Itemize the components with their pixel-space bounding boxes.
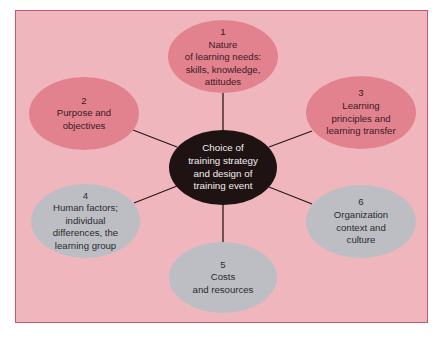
node-label-line: Human factors; <box>53 202 118 215</box>
node-number: 1 <box>220 26 225 39</box>
node-label-line: Nature <box>209 39 238 52</box>
connector-6 <box>269 187 312 204</box>
node-number: 2 <box>81 95 86 108</box>
node-label-line: skills, knowledge, <box>186 64 261 77</box>
node-learning-needs: 1 Nature of learning needs: skills, know… <box>168 20 278 93</box>
connector-3 <box>269 131 312 147</box>
node-number: 3 <box>358 87 363 100</box>
center-label-line: and design of <box>194 168 253 181</box>
node-label-line: context and <box>336 222 386 235</box>
node-number: 5 <box>220 259 225 272</box>
node-number: 6 <box>358 196 363 209</box>
node-label-line: Learning <box>342 100 379 113</box>
center-label-line: training strategy <box>188 155 258 168</box>
node-label-line: principles and <box>331 113 390 126</box>
node-label-line: Costs <box>211 271 236 284</box>
node-purpose-objectives: 2 Purpose and objectives <box>29 77 139 150</box>
center-label-line: training event <box>194 180 253 193</box>
node-label-line: and resources <box>193 284 254 297</box>
center-label-line: Choice of <box>202 142 243 155</box>
node-label-line: attitudes <box>205 76 241 89</box>
node-number: 4 <box>83 190 88 203</box>
node-label-line: culture <box>347 234 376 247</box>
connector-4 <box>134 186 177 203</box>
node-costs-resources: 5 Costs and resources <box>169 242 277 313</box>
node-label-line: Organization <box>334 209 388 222</box>
node-label-line: learning group <box>55 240 116 253</box>
node-label-line: objectives <box>63 120 106 133</box>
node-center-training-strategy: Choice of training strategy and design o… <box>169 130 277 205</box>
node-label-line: of learning needs: <box>185 51 261 64</box>
node-organization-context: 6 Organization context and culture <box>306 185 416 258</box>
connector-2 <box>133 130 177 147</box>
node-learning-principles: 3 Learning principles and learning trans… <box>306 76 416 149</box>
node-label-line: differences, the <box>53 227 118 240</box>
node-label-line: learning transfer <box>326 125 395 138</box>
node-label-line: Purpose and <box>57 107 111 120</box>
node-human-factors: 4 Human factors; individual differences,… <box>31 184 140 258</box>
node-label-line: individual <box>65 215 105 228</box>
